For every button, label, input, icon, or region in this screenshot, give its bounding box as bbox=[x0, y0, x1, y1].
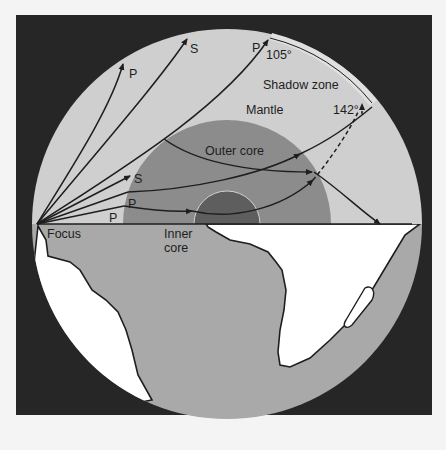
ray-label-p3: P bbox=[128, 197, 136, 211]
ray-label-p2: P bbox=[252, 41, 260, 55]
lower-hemisphere bbox=[0, 224, 446, 450]
mantle-label: Mantle bbox=[246, 103, 284, 117]
inner-core-label-2: core bbox=[164, 241, 188, 255]
shadow-zone-label: Shadow zone bbox=[263, 78, 339, 92]
outer-core-label: Outer core bbox=[205, 144, 264, 158]
ray-label-s2: S bbox=[134, 172, 142, 186]
angle-105-label: 105° bbox=[266, 48, 292, 62]
ray-label-p4: P bbox=[109, 211, 117, 225]
focus-label: Focus bbox=[47, 227, 81, 241]
earth-diagram: P S P 105° Shadow zone Mantle 142° Outer… bbox=[0, 0, 446, 450]
inner-core-label-1: Inner bbox=[164, 227, 193, 241]
angle-142-label: 142° bbox=[333, 103, 359, 117]
ray-label-s1: S bbox=[190, 42, 198, 56]
ray-label-p1: P bbox=[129, 67, 137, 81]
